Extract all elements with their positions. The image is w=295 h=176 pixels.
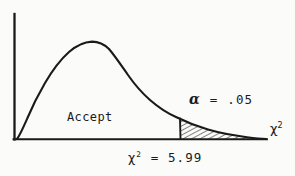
critical-value-equation-text: = 5.99: [142, 150, 202, 165]
alpha-symbol: α: [189, 91, 201, 107]
alpha-equation-text: = .05: [201, 92, 253, 107]
critical-value-line: [180, 119, 181, 140]
critical-value-label: χ2 = 5.99: [128, 152, 203, 165]
chi-symbol: χ: [270, 121, 278, 136]
chi-square-curve: [17, 42, 266, 139]
chi-exponent: 2: [278, 121, 283, 130]
chi-square-distribution-figure: Accept α = .05 χ2 χ2 = 5.99: [0, 0, 295, 176]
x-axis-label: χ2: [270, 122, 283, 135]
alpha-significance-label: α = .05: [189, 92, 253, 107]
accept-region-label: Accept: [67, 111, 113, 123]
